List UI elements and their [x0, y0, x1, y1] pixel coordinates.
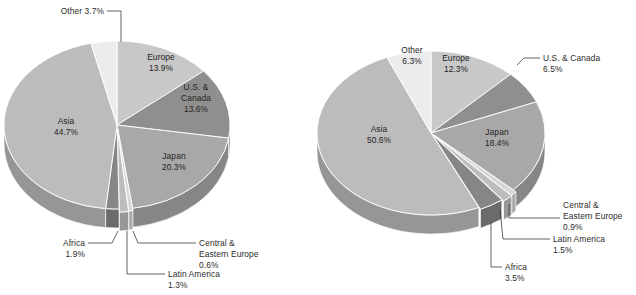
left-callout-cee-line1: Central & — [199, 238, 235, 248]
left-slice-label-japan: Japan — [162, 151, 186, 161]
left-callout-latam-value: 1.3% — [168, 280, 188, 290]
right-slice-label-asia: Asia — [371, 124, 388, 134]
right-callout-africa-name: Africa — [505, 262, 527, 272]
right-pie-chart — [317, 51, 545, 234]
left-slice-value-asia: 44.7% — [54, 127, 79, 137]
right-pie-slices — [317, 51, 545, 215]
right-callout-latam-name: Latin America — [553, 234, 605, 244]
right-callout-cee-line1: Central & — [563, 200, 599, 210]
left-callout-africa-name: Africa — [63, 238, 85, 248]
right-callout-us-canada-value: 6.5% — [543, 64, 563, 74]
right-slice-value-asia: 50.6% — [367, 135, 392, 145]
pie-slice-side — [106, 209, 119, 228]
left-callout-other: Other 3.7% — [61, 6, 105, 16]
right-callout-africa-value: 3.5% — [505, 273, 525, 283]
left-slice-label-us-canada-line1: U.S. & — [184, 82, 209, 92]
left-slice-label-asia: Asia — [58, 116, 75, 126]
right-callout-cee-line2: Eastern Europe — [563, 211, 623, 221]
left-slice-label-europe: Europe — [147, 52, 175, 62]
pie-slice-side — [119, 212, 128, 231]
pie-charts-figure: Europe 13.9% U.S. & Canada 13.6% Japan 2… — [0, 0, 636, 295]
left-callout-cee-line2: Eastern Europe — [199, 249, 259, 259]
right-slice-value-europe: 12.3% — [444, 64, 469, 74]
charts-svg: Europe 13.9% U.S. & Canada 13.6% Japan 2… — [0, 0, 636, 295]
left-slice-value-japan: 20.3% — [162, 162, 187, 172]
right-callout-latam-value: 1.5% — [553, 245, 573, 255]
left-pie-chart — [4, 41, 230, 231]
left-callout-africa-value: 1.9% — [66, 249, 86, 259]
right-slice-label-europe: Europe — [442, 53, 470, 63]
right-slice-value-other: 6.3% — [402, 56, 422, 66]
pie-slice-side — [129, 210, 133, 229]
right-slice-value-japan: 18.4% — [485, 138, 510, 148]
left-slice-label-us-canada-line2: Canada — [181, 93, 211, 103]
right-slice-label-other: Other — [401, 45, 423, 55]
right-callout-cee-value: 0.9% — [563, 222, 583, 232]
left-slice-value-us-canada: 13.6% — [184, 104, 209, 114]
left-slice-value-europe: 13.9% — [149, 63, 174, 73]
right-callout-us-canada-name: U.S. & Canada — [543, 53, 600, 63]
right-slice-label-japan: Japan — [485, 127, 509, 137]
left-callout-latam-name: Latin America — [168, 269, 220, 279]
